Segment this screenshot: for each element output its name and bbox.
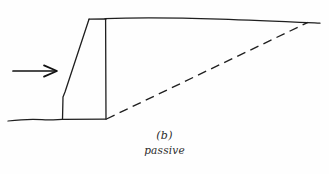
dashed-failure-plane [107,22,309,119]
wall-sloped-face [63,19,90,119]
left-ground-surface [8,119,62,121]
caption-word: passive [0,144,329,156]
caption-letter: (b) [0,130,329,143]
figure-caption: (b) passive [0,130,329,156]
right-ground-surface [105,18,320,23]
figure-canvas: (b) passive [0,0,329,174]
